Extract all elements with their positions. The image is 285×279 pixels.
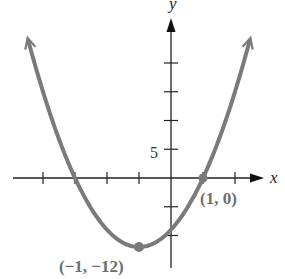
root-label: (1, 0)	[200, 189, 237, 208]
x-axis-arrow-icon	[250, 174, 264, 183]
axis-ticks	[43, 63, 235, 236]
vertex-label: (−1, −12)	[59, 257, 124, 276]
vertex-point	[134, 242, 144, 252]
x-axis-label: x	[269, 168, 278, 187]
y-axis-label: y	[167, 0, 177, 13]
y-axis-arrow-icon	[167, 18, 176, 32]
root-point	[199, 174, 208, 183]
parabola-curve	[29, 42, 250, 247]
graph: y x 5 (1, 0) (−1, −12)	[0, 0, 285, 279]
y-tick-label-5: 5	[150, 144, 158, 161]
